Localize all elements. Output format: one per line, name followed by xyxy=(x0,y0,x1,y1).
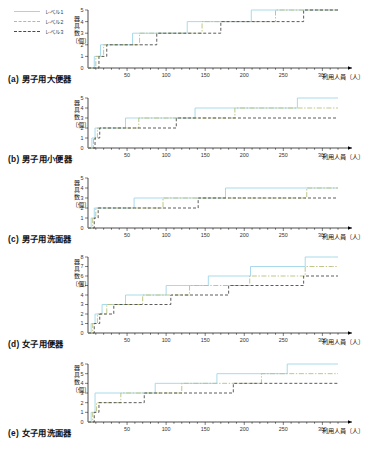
x-tick-label: 100 xyxy=(162,72,171,78)
x-axis-title-d: 利用人員〔人〕 xyxy=(322,337,364,346)
x-axis-arrow-icon xyxy=(348,226,352,230)
x-tick-label: 200 xyxy=(240,337,249,343)
x-axis-arrow-icon xyxy=(348,66,352,70)
x-tick-label: 50 xyxy=(124,232,130,238)
x-tick-label: 250 xyxy=(279,152,288,158)
x-tick-label: 150 xyxy=(201,72,210,78)
y-tick-label: 5 xyxy=(81,7,84,13)
x-axis-title-a: 利用人員〔人〕 xyxy=(322,72,364,81)
x-axis-title-c: 利用人員〔人〕 xyxy=(322,232,364,241)
panel-caption-a: (a) 男子用大便器 xyxy=(8,72,71,84)
y-tick-label: 1 xyxy=(81,409,84,415)
y-axis-title-b: 器具数〔個〕 xyxy=(72,100,81,129)
series-line xyxy=(88,276,338,333)
x-tick-label: 50 xyxy=(124,426,130,432)
x-tick-label: 50 xyxy=(124,152,130,158)
series-line xyxy=(88,98,338,148)
x-tick-label: 100 xyxy=(162,337,171,343)
series-line xyxy=(88,383,338,422)
x-tick-label: 100 xyxy=(162,152,171,158)
y-tick-label: 4 xyxy=(81,292,84,298)
panel-male-toilet: 50100150200250300012345 器具数〔個〕 (a) 男子用大便… xyxy=(0,0,382,95)
x-tick-label: 250 xyxy=(279,426,288,432)
y-tick-label: 2 xyxy=(81,400,84,406)
x-tick-label: 50 xyxy=(124,72,130,78)
x-tick-label: 250 xyxy=(279,72,288,78)
x-tick-label: 150 xyxy=(201,232,210,238)
x-axis-arrow-icon xyxy=(348,146,352,150)
x-tick-label: 250 xyxy=(279,337,288,343)
y-tick-label: 0 xyxy=(81,419,84,425)
x-tick-label: 50 xyxy=(124,337,130,343)
x-axis-arrow-icon xyxy=(348,420,352,424)
x-axis-title-e: 利用人員〔人〕 xyxy=(322,426,364,435)
panel-male-washbasin: 50100150200250300012345 器具数〔個〕 (c) 男子用洗面… xyxy=(0,175,382,255)
panel-male-urinal: 50100150200250300012345 器具数〔個〕 (b) 男子用小便… xyxy=(0,95,382,175)
panel-caption-b: (b) 男子用小便器 xyxy=(8,152,72,164)
series-line xyxy=(88,198,338,228)
panel-female-toilet: 50100150200250300012345678 器具数〔個〕 (d) 女子… xyxy=(0,255,382,360)
panel-caption-d: (d) 女子用便器 xyxy=(8,337,64,349)
x-tick-label: 200 xyxy=(240,426,249,432)
y-tick-label: 0 xyxy=(81,65,84,71)
y-tick-label: 1 xyxy=(81,215,84,221)
series-line xyxy=(88,10,338,68)
series-line xyxy=(88,364,338,422)
y-axis-title-c: 器具数〔個〕 xyxy=(72,180,81,209)
x-axis-arrow-icon xyxy=(348,331,352,335)
series-line xyxy=(88,10,338,68)
series-line xyxy=(88,10,338,68)
y-tick-label: 1 xyxy=(81,135,84,141)
x-tick-label: 100 xyxy=(162,232,171,238)
x-tick-label: 200 xyxy=(240,152,249,158)
y-tick-label: 1 xyxy=(81,53,84,59)
x-axis-title-b: 利用人員〔人〕 xyxy=(322,152,364,161)
y-tick-label: 3 xyxy=(81,301,84,307)
panel-caption-e: (e) 女子用洗面器 xyxy=(8,426,71,438)
y-axis-title-a: 器具数〔個〕 xyxy=(72,16,81,45)
x-tick-label: 100 xyxy=(162,426,171,432)
x-tick-label: 200 xyxy=(240,72,249,78)
y-tick-label: 0 xyxy=(81,145,84,151)
x-tick-label: 150 xyxy=(201,426,210,432)
x-tick-label: 250 xyxy=(279,232,288,238)
x-tick-label: 200 xyxy=(240,232,249,238)
y-tick-label: 0 xyxy=(81,225,84,231)
y-tick-label: 0 xyxy=(81,330,84,336)
panel-caption-c: (c) 男子用洗面器 xyxy=(8,232,71,244)
y-tick-label: 2 xyxy=(81,311,84,317)
fixture-count-figure: レベル1 レベル2 レベル3 50100150200250300012345 器… xyxy=(0,0,382,451)
y-tick-label: 1 xyxy=(81,320,84,326)
x-tick-label: 150 xyxy=(201,152,210,158)
y-axis-title-d: 器具数〔個〕 xyxy=(72,259,81,288)
x-tick-label: 150 xyxy=(201,337,210,343)
y-axis-title-e: 器具数〔個〕 xyxy=(72,365,81,394)
panel-female-washbasin: 501001502002503000123456 器具数〔個〕 (e) 女子用洗… xyxy=(0,360,382,451)
series-line xyxy=(88,374,338,422)
